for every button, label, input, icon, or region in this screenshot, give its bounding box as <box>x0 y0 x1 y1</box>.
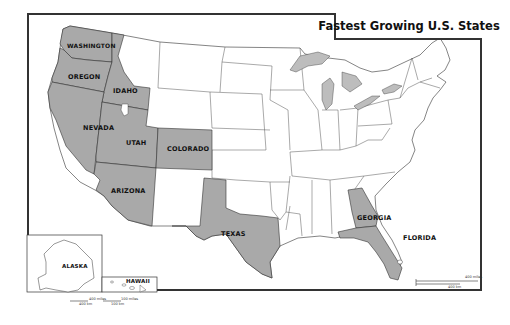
label-colorado: COLORADO <box>167 145 209 153</box>
label-florida: FLORIDA <box>403 234 436 242</box>
label-alaska: ALASKA <box>62 263 88 269</box>
label-georgia: GEORGIA <box>357 214 392 222</box>
hawaii-scale-km: 100 km <box>111 302 124 306</box>
label-nevada: NEVADA <box>83 124 114 132</box>
label-arizona: ARIZONA <box>111 187 146 195</box>
label-hawaii: HAWAII <box>126 278 150 284</box>
label-texas: TEXAS <box>221 230 246 238</box>
map-title-box: Fastest Growing U.S. States <box>334 13 482 40</box>
label-utah: UTAH <box>126 139 146 147</box>
scale-miles: 400 miles <box>465 275 482 279</box>
alaska-scale-km: 400 km <box>79 302 92 306</box>
alaska-scale-miles: 400 miles <box>89 297 106 301</box>
label-idaho: IDAHO <box>113 87 138 95</box>
label-oregon: OREGON <box>68 73 100 81</box>
label-washington: WASHINGTON <box>67 42 116 49</box>
map-title: Fastest Growing U.S. States <box>318 19 499 33</box>
hawaii-scale-miles: 100 miles <box>121 297 138 301</box>
scale-km: 400 km <box>448 285 461 289</box>
state-florida[interactable] <box>338 226 402 280</box>
